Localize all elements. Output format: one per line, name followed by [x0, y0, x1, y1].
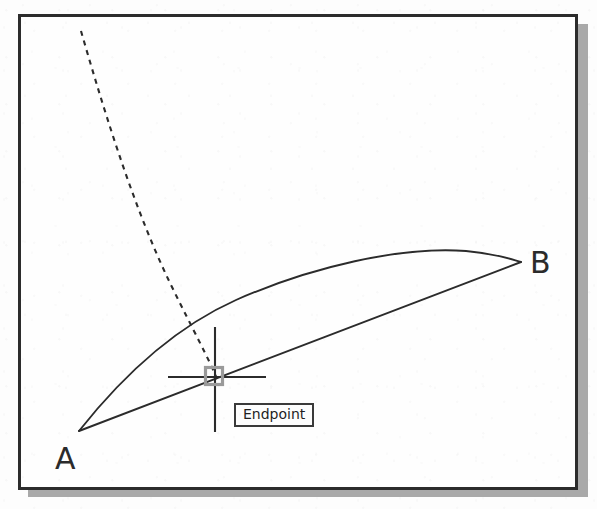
construction-line-dashed[interactable] — [81, 31, 217, 379]
drawing-frame: A B Endpoint — [18, 14, 578, 490]
vertex-label-a: A — [55, 444, 76, 474]
cad-illustration-screenshot: A B Endpoint — [0, 0, 597, 509]
vertex-label-b: B — [530, 248, 551, 278]
endpoint-snap-tooltip: Endpoint — [234, 403, 314, 427]
